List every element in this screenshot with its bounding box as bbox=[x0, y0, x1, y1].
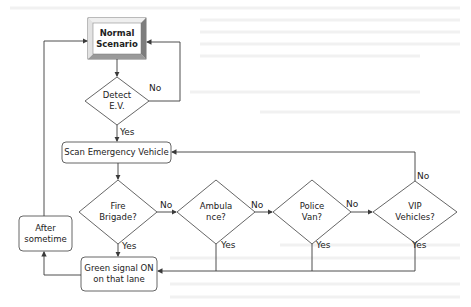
edge-yes-bus bbox=[158, 243, 415, 271]
edge-label-police-no: No bbox=[346, 199, 358, 209]
node-detect-ev: Detect E.V. bbox=[92, 88, 142, 114]
node-police-van: Police Van? bbox=[284, 199, 340, 225]
edge-label-fire-yes: Yes bbox=[122, 241, 137, 251]
node-green-signal: Green signal ON on that lane bbox=[81, 257, 157, 291]
edge-label-fire-no: No bbox=[160, 200, 172, 210]
edge-green-after bbox=[44, 252, 81, 275]
node-scan-emergency-vehicle: Scan Emergency Vehicle bbox=[62, 142, 171, 163]
edge-label-detect-no: No bbox=[149, 83, 161, 93]
edge-label-ambulance-yes: Yes bbox=[221, 240, 236, 250]
edge-label-vip-no: No bbox=[417, 171, 429, 181]
edge-vip-no bbox=[172, 152, 415, 181]
edge-label-police-yes: Yes bbox=[316, 240, 331, 250]
node-after-sometime: After sometime bbox=[19, 216, 72, 251]
edge-label-vip-yes: Yes bbox=[412, 240, 427, 250]
edge-label-detect-yes: Yes bbox=[120, 127, 135, 137]
node-normal-scenario: Normal Scenario bbox=[93, 23, 141, 54]
edge-after-start bbox=[44, 41, 87, 216]
node-ambulance: Ambula nce? bbox=[188, 199, 244, 225]
node-vip-vehicles: VIP Vehicles? bbox=[382, 199, 448, 225]
node-fire-brigade: Fire Brigade? bbox=[90, 199, 146, 225]
edge-label-ambulance-no: No bbox=[251, 200, 263, 210]
